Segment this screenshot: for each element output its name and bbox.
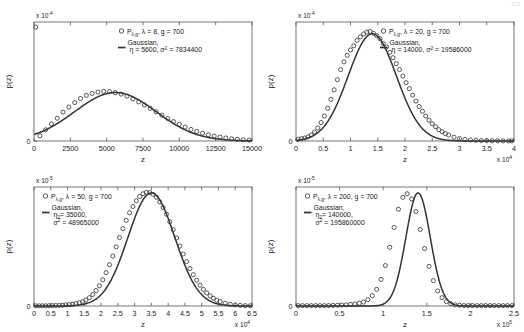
data-point xyxy=(201,287,205,291)
legend-label-gaussian: Gaussian, xyxy=(128,39,159,46)
data-point xyxy=(326,106,330,110)
data-point xyxy=(362,300,366,304)
x-tick-label: 4 xyxy=(512,144,516,153)
data-point xyxy=(316,126,320,130)
data-point xyxy=(366,298,370,302)
data-point xyxy=(436,289,440,293)
x-axis-exponent: x 104 xyxy=(497,155,512,163)
legend-label-gaussian: Gaussian, xyxy=(314,204,345,211)
data-point xyxy=(401,195,405,199)
data-point xyxy=(355,38,359,42)
data-point xyxy=(191,273,195,277)
data-point xyxy=(195,129,199,133)
x-tick-label: 7500 xyxy=(135,144,151,153)
data-point xyxy=(55,116,59,120)
data-point xyxy=(91,292,95,296)
data-point xyxy=(212,134,216,138)
data-point xyxy=(357,301,361,305)
data-point xyxy=(391,56,395,60)
x-tick-label: 12500 xyxy=(206,144,226,153)
y-tick-label: 0 xyxy=(289,137,293,146)
data-point xyxy=(107,263,111,267)
data-point xyxy=(124,218,128,222)
data-point xyxy=(102,89,106,93)
data-point xyxy=(188,266,192,270)
data-point xyxy=(332,88,336,92)
data-point xyxy=(312,130,316,134)
x-tick-label: 3.5 xyxy=(146,309,156,318)
x-tick-label: 0.5 xyxy=(46,309,56,318)
data-point xyxy=(73,101,77,105)
x-axis-label: z xyxy=(141,320,145,329)
data-point xyxy=(114,245,118,249)
x-tick-label: 5.5 xyxy=(213,309,223,318)
x-tick-label: 0 xyxy=(32,144,36,153)
x-axis-exponent: x 105 xyxy=(497,320,512,328)
x-tick-label: 0 xyxy=(294,144,298,153)
plot-area-bottom-right: 00.511.522.500.511.522.53zp(z)x 10-5x 10… xyxy=(262,166,524,332)
legend-label-params: η = 5600, σ2 = 7834400 xyxy=(130,46,203,54)
data-point xyxy=(452,135,456,139)
data-point xyxy=(101,278,105,282)
y-tick-label: 0 xyxy=(27,137,31,146)
data-point xyxy=(121,227,125,231)
data-point xyxy=(401,74,405,78)
subplot-top-left: 025005000750010000125001500000.511.522.5… xyxy=(0,0,262,166)
subplot-top-right: 00.511.522.533.5400.20.40.60.81zp(z)x 10… xyxy=(262,0,524,166)
data-point xyxy=(379,277,383,281)
data-point xyxy=(405,192,409,196)
data-point xyxy=(117,236,121,240)
legend-label-gaussian: Gaussian, xyxy=(390,39,421,46)
data-point xyxy=(195,278,199,282)
data-point xyxy=(424,114,428,118)
data-point xyxy=(427,264,431,268)
legend: Pλ,g, λ = 200, g = 700Gaussian,η2= 14000… xyxy=(304,193,378,226)
data-point xyxy=(398,68,402,72)
data-point xyxy=(418,227,422,231)
y-axis-label: p(z) xyxy=(4,74,13,88)
data-point xyxy=(111,254,115,258)
data-point xyxy=(131,204,135,208)
x-tick-label: 0.5 xyxy=(335,309,345,318)
legend-label-data: Pλ,g, λ = 200, g = 700 xyxy=(313,193,378,202)
data-point xyxy=(134,199,138,203)
x-tick-label: 0.5 xyxy=(318,144,328,153)
data-point xyxy=(414,210,418,214)
data-point xyxy=(404,81,408,85)
data-point xyxy=(345,53,349,57)
y-axis-exponent: x 10-4 xyxy=(298,11,315,19)
x-tick-label: 6.5 xyxy=(247,309,257,318)
y-axis-exponent: x 10-5 xyxy=(298,176,315,184)
x-tick-label: 1 xyxy=(66,309,70,318)
x-tick-label: 1.5 xyxy=(373,144,383,153)
x-tick-label: 10000 xyxy=(169,144,189,153)
subplot-bottom-left: 00.511.522.533.544.555.566.50123456zp(z)… xyxy=(0,166,262,332)
data-point xyxy=(420,109,424,113)
x-axis-label: z xyxy=(141,155,145,164)
legend-label-data: Pλ,g, λ = 8, g = 700 xyxy=(127,28,184,37)
data-point xyxy=(342,60,346,64)
data-point xyxy=(198,283,202,287)
data-point xyxy=(375,287,379,291)
data-point xyxy=(322,114,326,118)
legend-label-gaussian: Gaussian, xyxy=(52,204,83,211)
data-point xyxy=(185,260,189,264)
data-point xyxy=(423,246,427,250)
x-tick-label: 1.5 xyxy=(79,309,89,318)
data-point xyxy=(87,296,91,300)
legend-marker-circle xyxy=(119,29,123,33)
legend-label-data: Pλ,g, λ = 50, g = 700 xyxy=(51,193,112,202)
data-point xyxy=(440,296,444,300)
data-point xyxy=(90,91,94,95)
x-tick-label: 2.5 xyxy=(113,309,123,318)
y-axis-label: p(z) xyxy=(4,239,13,253)
y-axis-label: p(z) xyxy=(266,239,275,253)
data-point xyxy=(431,279,435,283)
legend-label-sigma: σ2 = 48965000 xyxy=(54,218,100,225)
plot-area-bottom-left: 00.511.522.533.544.555.566.50123456zp(z)… xyxy=(0,166,262,332)
data-point xyxy=(394,62,398,66)
x-tick-label: 2 xyxy=(99,309,103,318)
data-point xyxy=(84,93,88,97)
x-tick-label: 2.5 xyxy=(427,144,437,153)
data-point xyxy=(38,134,42,138)
